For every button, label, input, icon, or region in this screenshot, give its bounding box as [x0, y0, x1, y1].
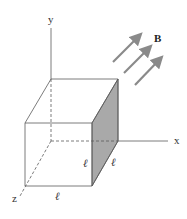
z-axis-label: z — [12, 192, 17, 204]
edge-label-vertical: ℓ — [83, 157, 88, 169]
field-arrow-2 — [124, 49, 148, 73]
edge-label-depth: ℓ — [111, 156, 116, 168]
field-arrow-3 — [135, 60, 159, 85]
shaded-right-face — [92, 79, 118, 186]
cube-field-diagram: y x z B ℓ ℓ ℓ — [0, 0, 187, 219]
y-axis-label: y — [48, 13, 54, 25]
field-label-B: B — [154, 32, 162, 44]
edge-label-width: ℓ — [55, 190, 60, 202]
magnetic-field-arrows — [113, 37, 159, 85]
field-arrow-1 — [113, 37, 138, 62]
x-axis-label: x — [174, 134, 180, 146]
